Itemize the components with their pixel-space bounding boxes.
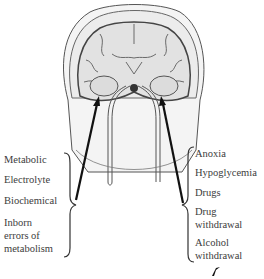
- cause-alcohol-withdrawal-line1: Alcohol: [195, 237, 229, 249]
- cause-inborn-line3: metabolism: [4, 243, 53, 255]
- cause-alcohol-withdrawal-line2: withdrawal: [195, 250, 242, 262]
- cause-inborn-line2: errors of: [4, 230, 40, 242]
- cause-hypoglycemia: Hypoglycemia: [195, 167, 257, 179]
- cause-inborn-line1: Inborn: [4, 217, 32, 229]
- cause-drug-withdrawal-line1: Drug: [195, 206, 217, 218]
- brainstem: [130, 84, 138, 92]
- decorative-mark: [212, 267, 220, 276]
- cause-anoxia: Anoxia: [195, 148, 226, 160]
- cause-electrolyte: Electrolyte: [4, 174, 50, 186]
- cause-drug-withdrawal-line2: withdrawal: [195, 219, 242, 231]
- left-brace-icon: [64, 153, 76, 257]
- cause-biochemical: Biochemical: [4, 195, 57, 207]
- cause-drugs: Drugs: [195, 187, 221, 199]
- cause-metabolic: Metabolic: [4, 154, 47, 166]
